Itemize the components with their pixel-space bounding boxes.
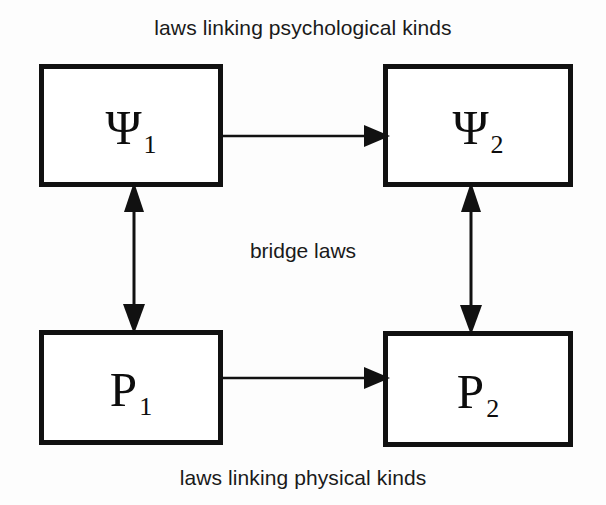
node-label-p2: P2 — [457, 367, 499, 416]
node-symbol-p1: P — [110, 365, 137, 414]
node-subscript-p2: 2 — [486, 396, 499, 422]
caption-top: laws linking psychological kinds — [0, 16, 606, 40]
node-symbol-p2: P — [457, 367, 484, 416]
node-label-p1: P1 — [110, 365, 152, 414]
diagram-canvas: laws linking psychological kinds Ψ1 Ψ2 P… — [0, 0, 606, 505]
node-subscript-p1: 1 — [139, 394, 152, 420]
arrow-p1-to-p2 — [218, 360, 390, 396]
node-subscript-psi1: 1 — [144, 132, 157, 158]
caption-bottom: laws linking physical kinds — [0, 466, 606, 490]
node-box-psi2[interactable]: Ψ2 — [383, 64, 573, 187]
node-symbol-psi1: Ψ — [105, 103, 141, 152]
caption-bridge-laws: bridge laws — [0, 239, 606, 263]
arrow-psi1-to-psi2 — [218, 118, 390, 154]
node-box-p2[interactable]: P2 — [383, 331, 573, 447]
node-symbol-psi2: Ψ — [452, 103, 488, 152]
node-label-psi2: Ψ2 — [452, 103, 503, 152]
node-box-psi1[interactable]: Ψ1 — [39, 64, 223, 187]
node-box-p1[interactable]: P1 — [39, 330, 223, 445]
node-label-psi1: Ψ1 — [105, 103, 156, 152]
node-subscript-psi2: 2 — [491, 132, 504, 158]
